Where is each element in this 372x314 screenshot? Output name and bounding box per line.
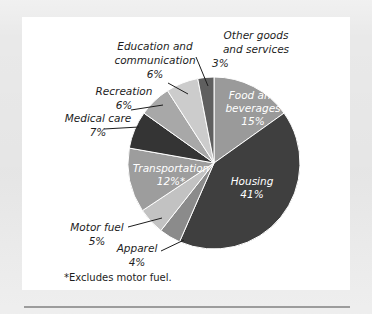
slice-label-education-line2: communication <box>114 54 195 66</box>
chart-footnote: *Excludes motor fuel. <box>64 272 172 283</box>
slice-value-other-goods: 3% <box>212 57 229 69</box>
slice-value-motor-fuel: 5% <box>89 235 106 247</box>
slice-label-medical-care: Medical care <box>65 112 132 124</box>
slice-value-medical-care: 7% <box>90 126 107 138</box>
slice-value-transportation: 12%* <box>157 175 186 187</box>
pie-chart: Food and beverages 15% Housing 41% Trans… <box>0 0 372 314</box>
leader-line-apparel <box>161 240 184 251</box>
slice-label-other-goods-line2: and services <box>223 43 290 55</box>
slice-label-apparel: Apparel <box>116 242 158 254</box>
slice-value-housing: 41% <box>240 188 263 200</box>
slice-label-recreation: Recreation <box>96 85 153 97</box>
slice-label-transportation: Transportation <box>133 162 210 174</box>
slice-value-education: 6% <box>147 68 164 80</box>
slice-label-food-and-beverages-line1: Food and <box>229 89 278 101</box>
slice-label-other-goods-line1: Other goods <box>224 29 289 41</box>
page-background: Food and beverages 15% Housing 41% Trans… <box>0 0 372 314</box>
slice-label-housing: Housing <box>231 175 274 187</box>
slice-label-food-and-beverages-line2: beverages <box>225 102 281 114</box>
slice-label-education-line1: Education and <box>117 40 193 52</box>
slice-label-motor-fuel: Motor fuel <box>70 221 123 233</box>
slice-value-recreation: 6% <box>116 99 133 111</box>
slice-value-food-and-beverages: 15% <box>241 115 264 127</box>
leader-line-medical-care <box>104 127 139 129</box>
slice-value-apparel: 4% <box>129 256 146 268</box>
